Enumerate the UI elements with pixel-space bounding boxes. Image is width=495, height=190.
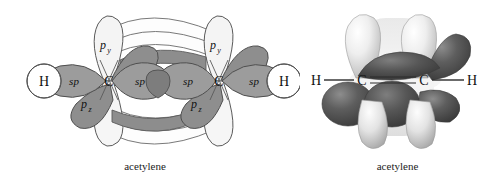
orbital-line-diagram: H H C C sp sp sp sp p y p y p z p z <box>0 0 300 162</box>
svg-text:y: y <box>106 46 111 55</box>
svg-text:p: p <box>99 38 106 52</box>
svg-text:p: p <box>209 38 216 52</box>
model-label-h-left: H <box>311 73 321 88</box>
model-label-h-right: H <box>467 73 477 88</box>
model-lobe-lower-right-light <box>406 100 436 149</box>
label-h-left: H <box>39 74 49 89</box>
svg-text:y: y <box>216 46 221 55</box>
caption-acetylene-left: acetylene <box>0 160 290 172</box>
caption-acetylene-right: acetylene <box>305 160 490 172</box>
label-sp-left-inner: sp <box>135 75 145 87</box>
label-sp-left-outer: sp <box>69 75 79 87</box>
space-filling-orbital-model: H C C H <box>300 0 490 162</box>
svg-text:p: p <box>80 97 87 111</box>
label-h-right: H <box>279 74 289 89</box>
model-label-c-left: C <box>357 73 366 88</box>
model-lobe-lower-left-light <box>358 100 388 149</box>
acetylene-figure: H H C C sp sp sp sp p y p y p z p z <box>0 0 495 190</box>
svg-text:p: p <box>190 97 197 111</box>
label-sp-right-inner: sp <box>183 75 193 87</box>
label-c-right: C <box>214 74 223 89</box>
model-label-c-right: C <box>419 73 428 88</box>
label-c-left: C <box>104 74 113 89</box>
label-sp-right-outer: sp <box>249 75 259 87</box>
